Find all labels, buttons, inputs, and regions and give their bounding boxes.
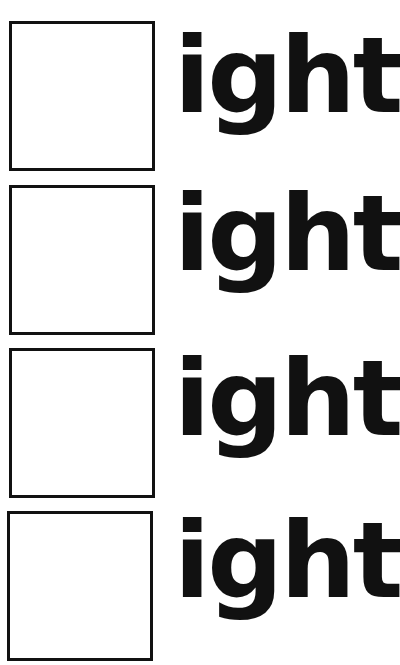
worksheet-row: ight	[0, 511, 331, 665]
answer-box[interactable]	[7, 511, 153, 661]
word-ending-text: ight	[174, 346, 400, 452]
answer-box[interactable]	[9, 348, 155, 498]
worksheet-row: ight	[0, 185, 331, 345]
worksheet-row: ight	[0, 348, 331, 508]
word-ending-text: ight	[174, 181, 400, 287]
word-ending-text: ight	[174, 23, 400, 129]
answer-box[interactable]	[9, 21, 155, 171]
answer-box[interactable]	[9, 185, 155, 335]
worksheet-row: ight	[0, 21, 331, 181]
word-ending-text: ight	[174, 508, 400, 614]
